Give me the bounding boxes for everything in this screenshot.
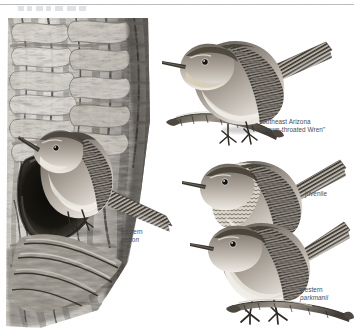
plate-artwork — [0, 0, 354, 331]
label-southeast-arizona: southeast Arizona "Brown-throated Wren" — [259, 118, 325, 133]
label-western-parkmanii: western parkmanii — [300, 286, 328, 301]
label-western-parkmanii-line-1: western — [300, 286, 328, 294]
label-eastern-aedon-line-2: aedon — [121, 236, 143, 244]
illustration-plate: eastern aedon southeast Arizona "Brown-t… — [0, 0, 354, 331]
label-southeast-arizona-line-2: "Brown-throated Wren" — [259, 126, 325, 134]
label-eastern-aedon-line-1: eastern — [121, 228, 143, 236]
label-juvenile: juvenile — [305, 190, 327, 198]
label-eastern-aedon: eastern aedon — [121, 228, 143, 243]
label-southeast-arizona-line-1: southeast Arizona — [259, 118, 325, 126]
label-juvenile-line-1: juvenile — [305, 190, 327, 198]
label-western-parkmanii-line-2: parkmanii — [300, 294, 328, 302]
